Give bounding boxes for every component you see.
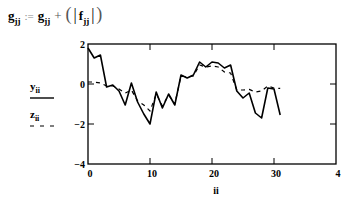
y-tick-label: 2 — [80, 39, 85, 50]
y-tick-label: −2 — [74, 119, 85, 130]
x-tick-label: 10 — [147, 168, 157, 179]
y-tick-label: 0 — [80, 79, 85, 90]
x-tick-label: 0 — [88, 168, 93, 179]
y-tick-label: −4 — [74, 159, 85, 170]
x-tick-label: 20 — [209, 168, 219, 179]
x-axis-label: ii — [213, 185, 219, 196]
line-chart[interactable]: 0102030420−2−4ii — [0, 0, 357, 204]
series-y-ii-line — [88, 48, 280, 124]
x-tick-label: 4 — [336, 168, 341, 179]
x-tick-label: 30 — [271, 168, 281, 179]
